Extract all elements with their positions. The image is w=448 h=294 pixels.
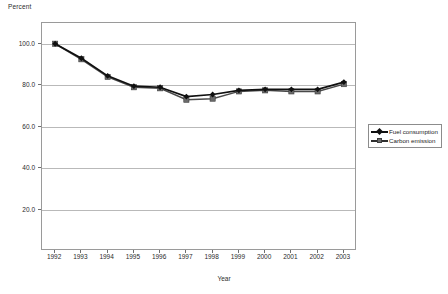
x-axis-tick-mark <box>185 250 186 253</box>
legend-swatch-diamond-icon <box>371 127 388 136</box>
x-axis-title: Year <box>0 275 448 282</box>
y-axis-tick-mark <box>38 84 41 85</box>
series-line-fuel-consumption <box>55 44 344 97</box>
series-layer <box>42 23 357 251</box>
legend-swatch-square-icon <box>371 136 388 145</box>
y-axis-tick-label: 60.0 <box>22 122 35 129</box>
x-axis-tick-label: 1993 <box>73 253 87 260</box>
x-axis-tick-label: 1997 <box>178 253 192 260</box>
x-axis-tick-mark <box>290 250 291 253</box>
x-axis-tick-label: 1992 <box>47 253 61 260</box>
legend-item-carbon-emission: Carbon emission <box>371 136 438 145</box>
plot-area <box>41 22 356 250</box>
x-axis-tick-mark <box>80 250 81 253</box>
legend-label: Carbon emission <box>389 136 435 145</box>
line-chart: Percent 100.080.060.040.020.0 1992199319… <box>0 0 448 294</box>
legend-label: Fuel consumption <box>389 127 438 136</box>
chart-legend: Fuel consumption Carbon emission <box>368 124 442 148</box>
x-axis-tick-label: 2002 <box>309 253 323 260</box>
x-axis-tick-mark <box>343 250 344 253</box>
x-axis-tick-mark <box>107 250 108 253</box>
x-axis-tick-mark <box>264 250 265 253</box>
y-axis-title: Percent <box>8 3 31 10</box>
x-axis-tick-mark <box>159 250 160 253</box>
y-axis-tick-mark <box>38 167 41 168</box>
x-axis-tick-label: 1999 <box>231 253 245 260</box>
x-axis-tick-label: 1995 <box>126 253 140 260</box>
y-axis-tick-label: 20.0 <box>22 205 35 212</box>
x-axis-tick-label: 2001 <box>283 253 297 260</box>
x-axis-tick-label: 2000 <box>257 253 271 260</box>
legend-item-fuel-consumption: Fuel consumption <box>371 127 438 136</box>
x-axis-tick-label: 1994 <box>99 253 113 260</box>
x-axis-tick-label: 2003 <box>336 253 350 260</box>
y-axis-tick-mark <box>38 43 41 44</box>
y-axis-tick-label: 100.0 <box>19 39 35 46</box>
x-axis-tick-mark <box>54 250 55 253</box>
y-axis-tick-label: 40.0 <box>22 164 35 171</box>
x-axis-tick-mark <box>238 250 239 253</box>
series-line-carbon-emission <box>55 44 344 100</box>
x-axis-tick-label: 1998 <box>204 253 218 260</box>
x-axis-tick-mark <box>317 250 318 253</box>
x-axis-tick-mark <box>133 250 134 253</box>
y-axis-tick-label: 80.0 <box>22 81 35 88</box>
y-axis-tick-mark <box>38 209 41 210</box>
x-axis-tick-label: 1996 <box>152 253 166 260</box>
y-axis-tick-mark <box>38 126 41 127</box>
x-axis-tick-mark <box>212 250 213 253</box>
